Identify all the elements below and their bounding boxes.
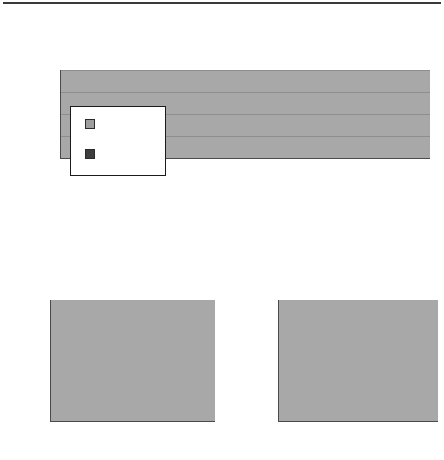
napl-more-plot-area <box>50 300 215 422</box>
napl-fewer-x-ticks <box>278 422 438 428</box>
legend-entry-1997 <box>85 119 100 129</box>
legend-swatch-2002-icon <box>85 149 95 159</box>
figure-page <box>0 0 444 460</box>
napl-more-bars <box>51 300 215 421</box>
napl-fewer-y-axis <box>222 301 274 423</box>
napl-more-title <box>0 232 222 236</box>
legend-swatch-1997-icon <box>85 119 95 129</box>
census-plot-wrapper <box>0 56 444 206</box>
napl-fewer-bars <box>279 300 438 421</box>
census-y-axis <box>14 71 58 158</box>
napl-fewer-plot-wrapper <box>222 294 444 460</box>
napl-fewer-plot-area <box>278 300 438 422</box>
census-chart-title <box>0 8 444 12</box>
napl-more-y-axis <box>0 301 46 423</box>
napl-fewer-x-labels <box>278 430 438 446</box>
top-divider-rule <box>3 2 441 4</box>
napl-more-plot-wrapper <box>0 294 222 460</box>
census-legend <box>70 106 166 176</box>
napl-more-chart <box>0 232 222 460</box>
census-firms-chart <box>0 8 444 208</box>
napl-more-x-labels <box>50 430 215 446</box>
legend-entry-2002 <box>85 149 100 159</box>
napl-more-x-ticks <box>50 422 215 428</box>
napl-fewer-chart <box>222 232 444 460</box>
napl-fewer-title <box>222 232 444 236</box>
